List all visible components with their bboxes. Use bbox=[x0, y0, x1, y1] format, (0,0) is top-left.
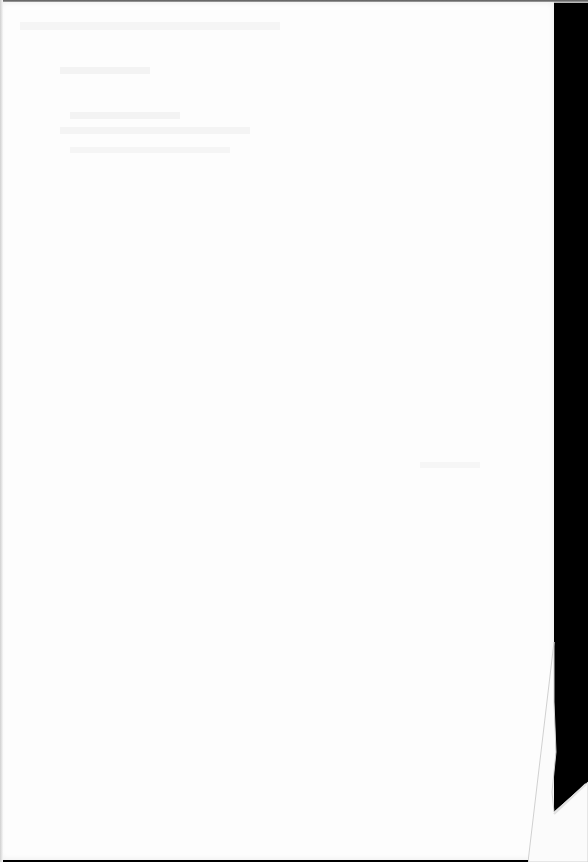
scan-left-edge bbox=[0, 0, 3, 862]
show-through-line bbox=[420, 462, 480, 468]
show-through-line bbox=[70, 147, 230, 153]
show-through-line bbox=[20, 22, 280, 30]
torn-corner bbox=[528, 642, 588, 862]
blank-page bbox=[0, 2, 554, 860]
show-through-line bbox=[60, 67, 150, 74]
show-through-line bbox=[70, 112, 180, 119]
show-through-line bbox=[60, 127, 250, 134]
